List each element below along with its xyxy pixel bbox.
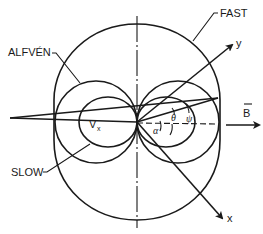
alpha-label: α (153, 125, 159, 136)
fast-label: FAST (220, 7, 248, 19)
b-reference-line (137, 123, 218, 124)
b-field-label: B (243, 107, 250, 119)
vx-label: V (89, 118, 97, 130)
alfven-curve-right (137, 81, 219, 163)
x-angle-arc (170, 124, 172, 135)
psi-label: ψ (186, 113, 193, 124)
slow-label: SLOW (11, 166, 44, 178)
theta-label: θ (171, 112, 176, 123)
vx-line (10, 118, 137, 122)
alfven-label: ALFVÉN (8, 46, 51, 58)
vx-subscript: x (97, 125, 101, 132)
alfven-leader (52, 53, 80, 83)
slow-leader (43, 144, 90, 172)
alpha-arc (160, 121, 161, 131)
x-axis-label: x (227, 212, 233, 224)
y-axis-label: y (236, 37, 242, 49)
friedrichs-diagram: FAST ALFVÉN SLOW V x B y x θ ψ α (0, 0, 263, 234)
fast-leader (193, 13, 218, 41)
x-axis-arrow (137, 122, 222, 218)
